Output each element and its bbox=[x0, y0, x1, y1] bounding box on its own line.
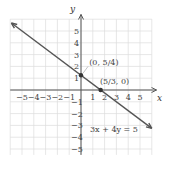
svg-text:5: 5 bbox=[74, 27, 79, 36]
svg-text:5: 5 bbox=[138, 93, 143, 102]
svg-text:−5: −5 bbox=[16, 93, 28, 102]
equation-label: 3x + 4y = 5 bbox=[90, 125, 138, 134]
svg-text:1: 1 bbox=[90, 93, 95, 102]
svg-text:(0, 5/4): (0, 5/4) bbox=[89, 58, 118, 67]
svg-text:(5/3, 0): (5/3, 0) bbox=[100, 77, 129, 86]
intercept-points: (0, 5/4)(5/3, 0) bbox=[79, 58, 129, 92]
svg-text:3: 3 bbox=[74, 51, 79, 60]
svg-text:−2: −2 bbox=[71, 110, 83, 119]
svg-text:−4: −4 bbox=[71, 133, 83, 142]
svg-text:4: 4 bbox=[74, 39, 79, 48]
svg-text:1: 1 bbox=[74, 74, 79, 83]
svg-text:−4: −4 bbox=[28, 93, 40, 102]
coordinate-graph: −5−4−3−2−11234554321−1−2−3−4−5 (0, 5/4)(… bbox=[0, 0, 176, 169]
x-axis-label: x bbox=[157, 93, 162, 103]
svg-text:−3: −3 bbox=[40, 93, 52, 102]
svg-text:−1: −1 bbox=[71, 98, 83, 107]
svg-text:−5: −5 bbox=[71, 145, 83, 154]
svg-text:−3: −3 bbox=[71, 121, 83, 130]
svg-text:−2: −2 bbox=[51, 93, 63, 102]
y-axis-label: y bbox=[69, 4, 76, 14]
svg-text:4: 4 bbox=[126, 93, 131, 102]
